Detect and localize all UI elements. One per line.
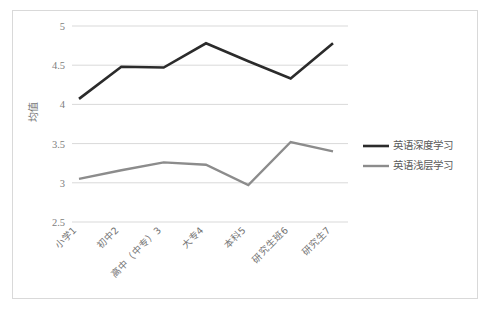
x-axis-tick-label: 本科5: [222, 225, 248, 251]
x-axis-tick-label: 小学1: [52, 225, 78, 251]
x-axis-tick-labels: 小学1初中2高中（中专）3大专4本科5研究生班6研究生7: [52, 225, 332, 279]
x-axis-tick-label: 大专4: [179, 225, 205, 251]
y-axis-tick-label: 4: [60, 99, 66, 110]
x-axis-tick-label: 研究生7: [299, 225, 332, 258]
legend-label: 英语深度学习: [393, 139, 453, 151]
series-line-2: [79, 142, 333, 185]
y-axis-tick-label: 3.5: [52, 139, 65, 150]
chart-legend: 英语深度学习英语浅层学习: [363, 139, 453, 171]
x-axis-tick-label: 研究生班6: [250, 225, 290, 265]
gridlines: [72, 26, 348, 222]
x-axis-tick-label: 初中2: [95, 225, 121, 251]
legend-label: 英语浅层学习: [393, 159, 453, 171]
y-axis-title-text: 均值: [27, 102, 39, 122]
series-line-1: [79, 43, 333, 99]
y-axis-title: 均值: [27, 102, 39, 122]
y-axis-tick-label: 4.5: [52, 60, 65, 71]
data-series: [79, 43, 333, 185]
line-chart: 2.533.544.55 小学1初中2高中（中专）3大专4本科5研究生班6研究生…: [0, 0, 490, 310]
y-axis-tick-label: 5: [60, 21, 65, 32]
y-axis-tick-labels: 2.533.544.55: [52, 21, 66, 228]
y-axis-tick-label: 3: [60, 178, 65, 189]
y-axis-tick-label: 2.5: [52, 217, 65, 228]
